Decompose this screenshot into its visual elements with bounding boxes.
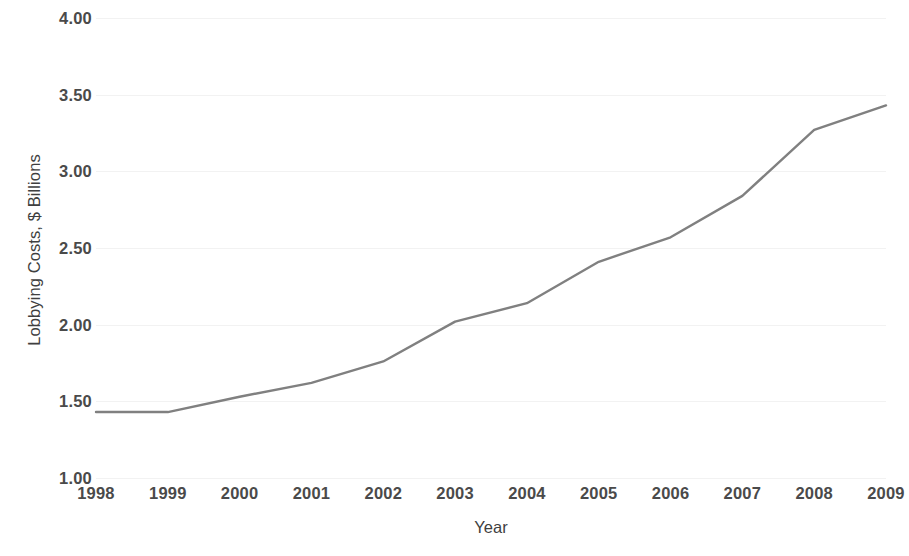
plot-area xyxy=(96,18,886,478)
x-tick-label-2004: 2004 xyxy=(487,484,567,503)
x-tick-label-2005: 2005 xyxy=(559,484,639,503)
x-tick-label-2008: 2008 xyxy=(774,484,854,503)
y-tick-label-4.00: 4.00 xyxy=(0,9,92,28)
y-tick-label-2.50: 2.50 xyxy=(0,239,92,258)
x-axis-title: Year xyxy=(96,518,886,537)
x-axis-tick-labels: 1998199920002001200220032004200520062007… xyxy=(96,484,886,510)
x-tick-label-2009: 2009 xyxy=(846,484,909,503)
series-line-lobbying-costs xyxy=(96,105,886,412)
x-tick-label-2003: 2003 xyxy=(415,484,495,503)
y-tick-label-1.50: 1.50 xyxy=(0,392,92,411)
x-tick-label-1999: 1999 xyxy=(128,484,208,503)
y-axis-tick-labels: 1.001.502.002.503.003.504.00 xyxy=(0,0,92,556)
y-tick-label-3.00: 3.00 xyxy=(0,162,92,181)
x-tick-label-1998: 1998 xyxy=(56,484,136,503)
x-tick-label-2000: 2000 xyxy=(200,484,280,503)
x-tick-label-2001: 2001 xyxy=(271,484,351,503)
x-tick-label-2002: 2002 xyxy=(343,484,423,503)
y-tick-label-3.50: 3.50 xyxy=(0,85,92,104)
gridline-1.00 xyxy=(96,478,886,479)
x-tick-label-2006: 2006 xyxy=(631,484,711,503)
data-line-svg xyxy=(96,18,886,478)
y-tick-label-2.00: 2.00 xyxy=(0,315,92,334)
x-tick-label-2007: 2007 xyxy=(702,484,782,503)
